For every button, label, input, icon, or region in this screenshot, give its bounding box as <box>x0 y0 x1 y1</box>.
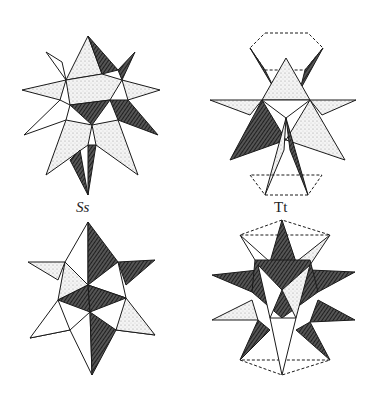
label-tt: Tt <box>274 199 287 216</box>
polyhedron-bottom-right <box>212 220 355 375</box>
polyhedron-bottom-left <box>28 222 155 375</box>
polyhedron-top-left <box>22 36 160 195</box>
label-ss: Ss <box>76 199 89 216</box>
engraving-plate <box>0 0 379 403</box>
polyhedron-top-right <box>210 33 356 195</box>
